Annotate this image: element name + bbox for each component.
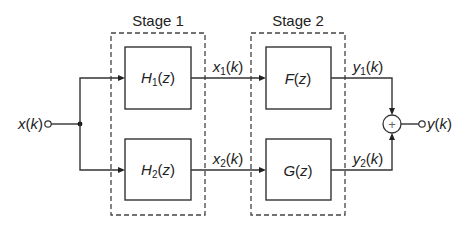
block-h1-label: H1(z) (141, 69, 175, 88)
arrow-icon (389, 133, 395, 140)
signal-y1-label: y1(k) (352, 58, 384, 77)
block-g-label: G(z) (283, 162, 312, 179)
output-label: y(k) (426, 115, 452, 132)
block-diagram: Stage 1 Stage 2 x(k) H1(z) H2(z) x1(k) x… (0, 0, 469, 231)
block-h2-label: H2(z) (141, 161, 175, 180)
wire-to-h2 (80, 124, 119, 170)
arrow-icon (118, 167, 125, 173)
arrow-icon (389, 108, 395, 115)
signal-x2-label: x2(k) (212, 150, 244, 169)
stage-2-label: Stage 2 (272, 12, 324, 29)
arrow-icon (259, 167, 266, 173)
input-terminal-icon (45, 121, 51, 127)
signal-y2-label: y2(k) (352, 150, 384, 169)
stage-1-label: Stage 1 (132, 12, 184, 29)
block-f-label: F(z) (285, 70, 312, 87)
wire-y1 (331, 78, 392, 109)
summer-plus-icon: + (388, 117, 396, 132)
signal-x1-label: x1(k) (212, 58, 244, 77)
arrow-icon (259, 75, 266, 81)
input-label: x(k) (17, 115, 43, 132)
output-terminal-icon (419, 121, 425, 127)
arrow-icon (118, 75, 125, 81)
wire-to-h1 (80, 78, 119, 124)
